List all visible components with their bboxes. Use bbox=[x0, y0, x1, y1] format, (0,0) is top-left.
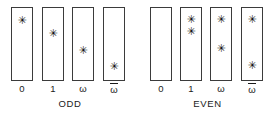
asterisk-icon: ✳ bbox=[186, 26, 195, 37]
asterisk-icon: ✳ bbox=[109, 61, 118, 72]
column-label-odd-2: ω bbox=[72, 83, 94, 94]
asterisk-icon: ✳ bbox=[247, 59, 256, 70]
group-label-odd: ODD bbox=[0, 98, 140, 109]
asterisk-icon: ✳ bbox=[17, 15, 26, 26]
column-odd-2: ✳ bbox=[72, 7, 94, 81]
column-odd-1: ✳ bbox=[42, 7, 64, 81]
column-odd-3: ✳ bbox=[103, 7, 125, 81]
column-label-text: ω bbox=[217, 83, 224, 94]
column-label-even-1: 1 bbox=[180, 83, 202, 94]
asterisk-icon: ✳ bbox=[247, 13, 256, 24]
column-box bbox=[150, 7, 172, 81]
column-label-text: 1 bbox=[188, 83, 193, 94]
column-even-1: ✳✳ bbox=[180, 7, 202, 81]
group-label-even: EVEN bbox=[140, 98, 275, 109]
column-box bbox=[42, 7, 64, 81]
column-label-text: ω bbox=[110, 83, 117, 95]
column-label-even-2: ω bbox=[210, 83, 232, 94]
column-even-3: ✳✳ bbox=[241, 7, 263, 81]
asterisk-icon: ✳ bbox=[78, 44, 87, 55]
column-label-text: 1 bbox=[50, 83, 55, 94]
group-even: 01ωω✳✳✳✳✳✳EVEN bbox=[140, 0, 275, 116]
column-odd-0: ✳ bbox=[11, 7, 33, 81]
column-label-odd-1: 1 bbox=[42, 83, 64, 94]
column-label-text: 0 bbox=[158, 83, 163, 94]
asterisk-icon: ✳ bbox=[216, 42, 225, 53]
group-odd: 01ωω✳✳✳✳ODD bbox=[0, 0, 140, 116]
column-even-2: ✳✳ bbox=[210, 7, 232, 81]
column-label-text: ω bbox=[248, 83, 255, 95]
ordinal-columns-figure: 01ωω✳✳✳✳ODD01ωω✳✳✳✳✳✳EVEN bbox=[0, 0, 275, 116]
column-label-text: ω bbox=[79, 83, 86, 94]
asterisk-icon: ✳ bbox=[186, 13, 195, 24]
column-label-even-0: 0 bbox=[150, 83, 172, 94]
column-even-0 bbox=[150, 7, 172, 81]
column-label-even-3: ω bbox=[241, 83, 263, 95]
column-label-text: 0 bbox=[19, 83, 24, 94]
asterisk-icon: ✳ bbox=[48, 27, 57, 38]
column-label-odd-0: 0 bbox=[11, 83, 33, 94]
asterisk-icon: ✳ bbox=[216, 13, 225, 24]
column-label-odd-3: ω bbox=[103, 83, 125, 95]
